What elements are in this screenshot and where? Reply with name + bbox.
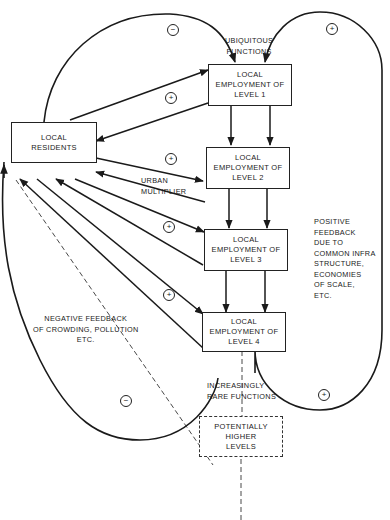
level4-employment-node: LOCAL EMPLOYMENT OF LEVEL 4 — [202, 312, 286, 352]
level4-loop-sign-icon: + — [163, 289, 175, 301]
level2-employment-node: LOCAL EMPLOYMENT OF LEVEL 2 — [206, 147, 290, 189]
negative-feedback-label: NEGATIVE FEEDBACK OF CROWDING, POLLUTION… — [33, 314, 139, 346]
bottom-negative-loop-sign-icon: − — [120, 395, 132, 407]
bottom-positive-loop-sign-icon: + — [318, 389, 330, 401]
level3-loop-sign-icon: + — [163, 221, 175, 233]
rare-functions-label: INCREASINGLY RARE FUNCTIONS — [207, 381, 276, 402]
urban-multiplier-label: URBAN MULTIPLIER — [141, 176, 186, 197]
level2-loop-sign-icon: + — [165, 153, 177, 165]
bottom-left-loop-arc — [3, 162, 219, 440]
positive-feedback-label: POSITIVE FEEDBACK DUE TO COMMON INFRA ST… — [314, 217, 376, 301]
positive-loop-sign-icon: + — [326, 23, 338, 35]
ubiquitous-functions-label: UBIQUITOUS FUNCTIONS — [225, 36, 273, 57]
level1-loop-sign-icon: + — [165, 92, 177, 104]
potentially-higher-levels-node: POTENTIALLY HIGHER LEVELS — [199, 416, 283, 457]
negative-loop-sign-icon: − — [167, 24, 179, 36]
level1-employment-node: LOCAL EMPLOYMENT OF LEVEL 1 — [208, 64, 292, 106]
top-left-loop-arc — [44, 14, 235, 122]
local-residents-node: LOCAL RESIDENTS — [11, 122, 97, 163]
level3-employment-node: LOCAL EMPLOYMENT OF LEVEL 3 — [204, 229, 288, 271]
